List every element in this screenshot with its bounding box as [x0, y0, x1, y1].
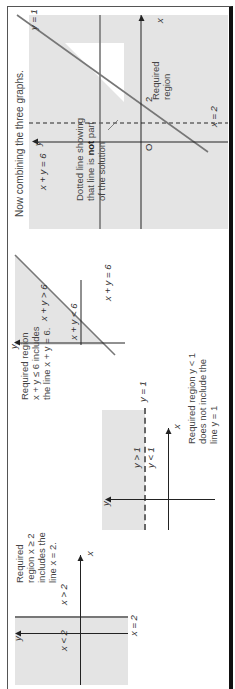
label-line-x-plus-y-equals-6: x + y = 6 — [37, 154, 48, 190]
note-line: Dotted line showing — [74, 118, 85, 201]
note-text: that line is — [85, 158, 96, 201]
axis-label-x: x — [154, 18, 165, 23]
origin-label: O — [143, 144, 154, 151]
note-text: part — [85, 122, 96, 138]
dotted-line-note: Dotted line showing that line is not par… — [74, 118, 107, 201]
region-label-line: Required — [150, 61, 161, 100]
label-line-x-equals-2: x = 2 — [208, 106, 219, 127]
note-emphasis: not — [85, 141, 96, 156]
required-region-label: Required region — [150, 61, 172, 100]
note-line: of the solution — [96, 118, 107, 201]
axis-label-y: y — [32, 141, 43, 146]
region-label-line: region — [161, 61, 172, 100]
label-line-y-equals-1: y = 1 — [28, 9, 39, 30]
